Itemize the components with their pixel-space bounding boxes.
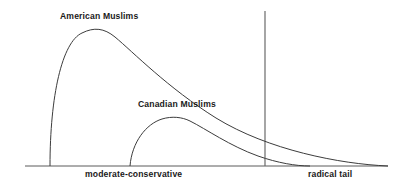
axis-label-radical-tail: radical tail	[308, 170, 352, 179]
distribution-figure	[0, 0, 420, 188]
axis-label-moderate-conservative: moderate-conservative	[85, 170, 182, 179]
canadian-muslims-curve	[130, 117, 310, 166]
american-muslims-label: American Muslims	[60, 12, 138, 21]
canadian-muslims-label: Canadian Muslims	[138, 100, 216, 109]
diagram-canvas: American Muslims Canadian Muslims modera…	[0, 0, 420, 188]
american-muslims-curve	[50, 29, 388, 166]
